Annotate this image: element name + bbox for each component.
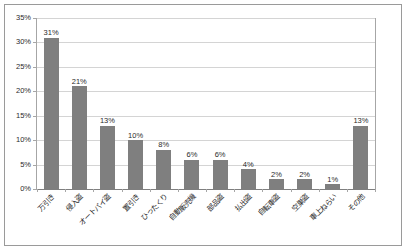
gridline xyxy=(37,165,375,166)
x-axis-tick xyxy=(347,189,348,192)
x-axis-tick xyxy=(150,189,151,192)
bar: 2% xyxy=(297,179,312,189)
y-axis-tick xyxy=(33,165,37,166)
bar: 21% xyxy=(72,86,87,189)
bar: 6% xyxy=(184,160,199,189)
y-axis-tick xyxy=(33,91,37,92)
y-axis-tick xyxy=(33,140,37,141)
y-axis-tick-label: 30% xyxy=(16,39,31,47)
y-axis-tick xyxy=(33,42,37,43)
bar-value-label: 10% xyxy=(128,132,143,140)
gridline xyxy=(37,116,375,117)
y-axis-tick xyxy=(33,18,37,19)
bar-value-label: 8% xyxy=(158,141,169,149)
x-axis-tick xyxy=(234,189,235,192)
y-axis-tick-label: 0% xyxy=(20,185,31,193)
bar-value-label: 4% xyxy=(243,161,254,169)
bar: 13% xyxy=(100,126,115,190)
y-axis-tick-label: 15% xyxy=(16,112,31,120)
x-axis-tick xyxy=(291,189,292,192)
bar: 10% xyxy=(128,140,143,189)
bar-value-label: 6% xyxy=(215,151,226,159)
bar: 6% xyxy=(213,160,228,189)
gridline xyxy=(37,42,375,43)
bar: 13% xyxy=(353,126,368,190)
x-axis-tick xyxy=(122,189,123,192)
y-axis-tick xyxy=(33,67,37,68)
y-axis-tick-label: 5% xyxy=(20,161,31,169)
chart-canvas: 0%5%10%15%20%25%30%35% 31%21%13%10%8%6%6… xyxy=(5,5,403,247)
bar-value-label: 2% xyxy=(299,171,310,179)
plot-area: 0%5%10%15%20%25%30%35% 31%21%13%10%8%6%6… xyxy=(36,18,376,190)
y-axis-tick xyxy=(33,116,37,117)
y-axis-tick-label: 25% xyxy=(16,63,31,71)
bar: 8% xyxy=(156,150,171,189)
bar: 1% xyxy=(325,184,340,189)
x-axis-tick xyxy=(262,189,263,192)
gridline xyxy=(37,18,375,19)
x-axis-tick xyxy=(206,189,207,192)
bar-value-label: 13% xyxy=(353,117,368,125)
y-axis-tick-label: 20% xyxy=(16,88,31,96)
bar-value-label: 2% xyxy=(271,171,282,179)
bar-value-label: 31% xyxy=(44,29,59,37)
x-axis-tick xyxy=(375,189,376,192)
bar-value-label: 6% xyxy=(186,151,197,159)
bar-value-label: 21% xyxy=(72,78,87,86)
x-axis-tick xyxy=(65,189,66,192)
gridline xyxy=(37,67,375,68)
bar-value-label: 1% xyxy=(327,176,338,184)
x-axis-tick xyxy=(319,189,320,192)
bar: 31% xyxy=(44,38,59,189)
bar-value-label: 13% xyxy=(100,117,115,125)
x-axis-tick xyxy=(93,189,94,192)
chart-frame: 0%5%10%15%20%25%30%35% 31%21%13%10%8%6%6… xyxy=(4,4,402,246)
x-axis-tick xyxy=(178,189,179,192)
y-axis-tick-label: 35% xyxy=(16,14,31,22)
gridline xyxy=(37,91,375,92)
bar: 4% xyxy=(241,169,256,189)
gridline xyxy=(37,140,375,141)
y-axis-tick-label: 10% xyxy=(16,136,31,144)
bar: 2% xyxy=(269,179,284,189)
x-axis-tick xyxy=(37,189,38,192)
